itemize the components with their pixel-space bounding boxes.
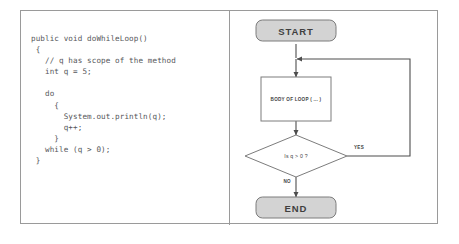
java-code-snippet: public void doWhileLoop() { // q has sco…	[31, 33, 221, 166]
flow-node-start-label: START	[278, 26, 313, 37]
code-panel: public void doWhileLoop() { // q has sco…	[21, 11, 229, 225]
flow-node-decision-label: Is q > 0 ?	[284, 153, 308, 159]
flowchart-panel: START BODY OF LOOP ( ... ) Is q > 0 ? YE…	[230, 11, 438, 225]
flow-edge-label-yes: YES	[354, 145, 364, 150]
flow-node-body-label: BODY OF LOOP ( ... )	[271, 97, 322, 102]
flow-node-end-label: END	[285, 203, 308, 214]
figure-do-while-loop: public void doWhileLoop() { // q has sco…	[0, 0, 459, 244]
figure-frame: public void doWhileLoop() { // q has sco…	[20, 10, 438, 224]
flow-edge-label-no: NO	[284, 179, 292, 184]
